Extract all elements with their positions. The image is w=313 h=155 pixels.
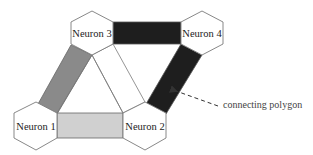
annotation-label: connecting polygon (223, 99, 302, 110)
neuron-2-label: Neuron 2 (125, 121, 164, 132)
connecting-polygon-n4-n2 (146, 44, 202, 114)
connections-layer (38, 22, 202, 138)
neuron-3-label: Neuron 3 (72, 28, 111, 39)
connecting-polygon-n3-n2 (92, 44, 145, 113)
connecting-polygon-n1-n3 (38, 45, 92, 114)
annotation: connecting polygon (176, 91, 302, 110)
connecting-polygon-n1-n2 (57, 113, 123, 138)
dashed-arrow-icon (176, 91, 218, 106)
neuron-1[interactable]: Neuron 1 (14, 102, 57, 150)
connecting-polygon-n3-n4 (113, 22, 181, 44)
neuron-1-label: Neuron 1 (16, 121, 55, 132)
neuron-diagram: Neuron 3 Neuron 4 Neuron 1 Neuron 2 conn… (0, 0, 313, 155)
neuron-4-label: Neuron 4 (182, 28, 222, 39)
